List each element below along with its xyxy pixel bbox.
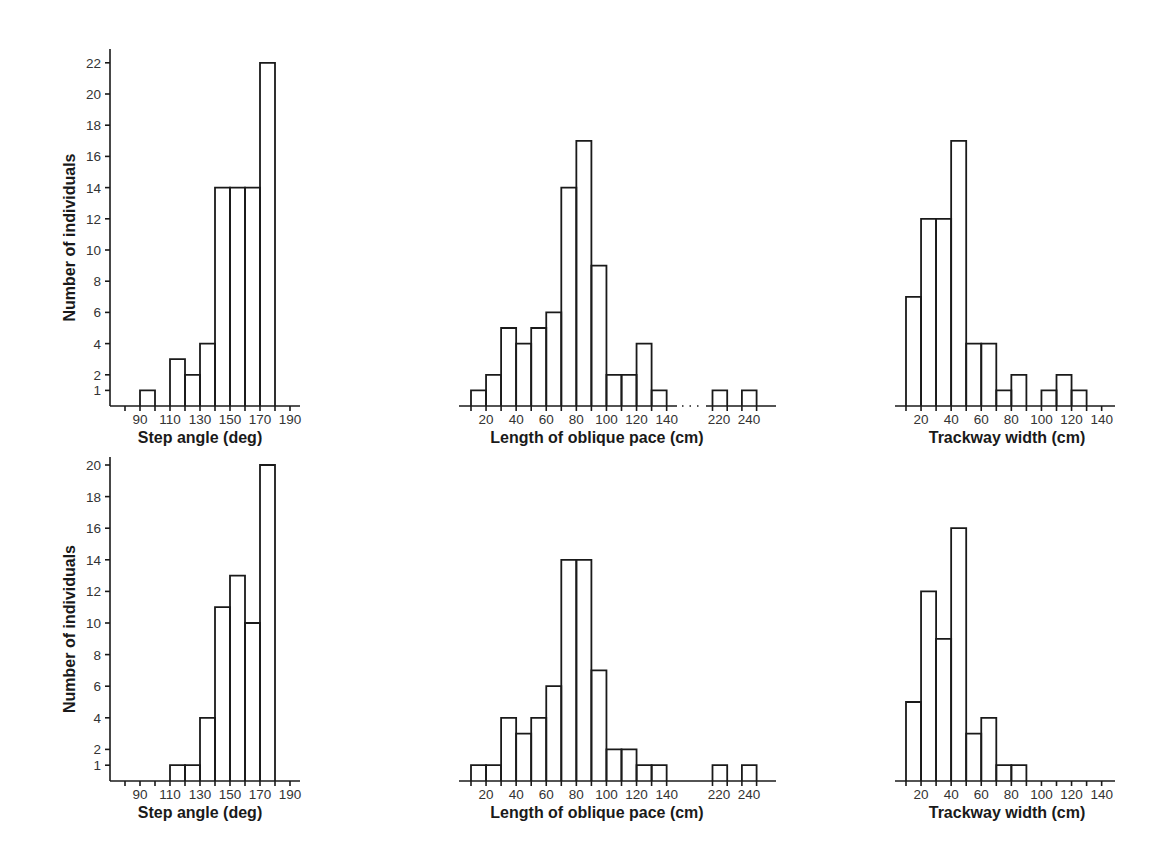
y-tick-label: 2 <box>93 742 101 757</box>
x-tick-label: 100 <box>595 787 618 802</box>
y-tick-label: 14 <box>86 181 102 196</box>
x-tick-label: 60 <box>539 412 554 427</box>
histogram-bar <box>1041 390 1056 406</box>
y-tick-label: 6 <box>93 305 101 320</box>
histogram-bar <box>1072 390 1087 406</box>
histogram-bar <box>486 765 501 781</box>
y-tick-label: 20 <box>86 87 101 102</box>
x-tick-label: 110 <box>159 412 181 427</box>
x-axis-title: Step angle (deg) <box>138 429 262 446</box>
histogram-bar <box>606 375 621 406</box>
x-tick-label: 120 <box>1060 787 1083 802</box>
histogram-bar <box>713 765 728 781</box>
histogram-bar <box>516 344 531 406</box>
histogram-bar <box>501 718 516 781</box>
x-tick-label: 130 <box>189 412 212 427</box>
histogram-bar <box>906 297 921 406</box>
histogram-bar <box>906 702 921 781</box>
histogram-bar <box>531 328 546 406</box>
x-tick-label: 20 <box>914 412 929 427</box>
x-tick-label: 130 <box>189 787 212 802</box>
x-tick-label: 240 <box>738 412 761 427</box>
histogram-bar <box>921 591 936 781</box>
x-axis-title: Trackway width (cm) <box>929 804 1086 821</box>
x-axis-title: Step angle (deg) <box>138 804 262 821</box>
histogram-bar <box>981 718 996 781</box>
histogram-bar <box>576 560 591 781</box>
histogram-bar <box>230 188 245 406</box>
x-tick-label: 20 <box>479 787 494 802</box>
histogram-bar <box>215 188 230 406</box>
histogram-bar <box>230 576 245 781</box>
y-tick-label: 22 <box>86 56 101 71</box>
x-tick-label: 220 <box>708 412 731 427</box>
histogram-panel-bottom-step-angle: 90110130150170190Step angle (deg)1246810… <box>61 457 301 821</box>
x-axis-title: Length of oblique pace (cm) <box>490 804 703 821</box>
x-tick-label: 140 <box>655 787 678 802</box>
histogram-bar <box>200 718 215 781</box>
y-tick-label: 2 <box>93 368 101 383</box>
y-tick-label: 10 <box>86 243 101 258</box>
histogram-bar <box>245 188 260 406</box>
histogram-bar <box>516 734 531 781</box>
x-tick-label: 140 <box>655 412 678 427</box>
x-tick-label: 80 <box>1004 412 1019 427</box>
x-tick-label: 150 <box>219 787 242 802</box>
histogram-bar <box>637 765 652 781</box>
histogram-bar <box>951 141 966 406</box>
x-tick-label: 80 <box>569 412 584 427</box>
x-tick-label: 20 <box>914 787 929 802</box>
y-axis-title: Number of individuals <box>61 545 78 713</box>
x-tick-label: 100 <box>1030 787 1053 802</box>
panels: 90110130150170190Step angle (deg)1246810… <box>61 49 1115 821</box>
histogram-bar <box>471 765 486 781</box>
y-tick-label: 18 <box>86 490 101 505</box>
histogram-panel-bottom-oblique-pace: 20406080100120140220240Length of oblique… <box>459 560 776 821</box>
x-tick-label: 170 <box>249 787 272 802</box>
x-tick-label: 170 <box>249 412 272 427</box>
y-tick-label: 8 <box>93 274 101 289</box>
histogram-bar <box>561 560 576 781</box>
y-tick-label: 1 <box>93 383 101 398</box>
histogram-bar <box>486 375 501 406</box>
x-tick-label: 120 <box>1060 412 1083 427</box>
histogram-bar <box>140 390 155 406</box>
x-tick-label: 60 <box>974 412 989 427</box>
y-axis-title: Number of individuals <box>61 153 78 321</box>
histogram-bar <box>996 765 1011 781</box>
histogram-bar <box>622 375 637 406</box>
histogram-bar <box>170 359 185 406</box>
histogram-bar <box>921 219 936 406</box>
x-tick-label: 80 <box>569 787 584 802</box>
histogram-bar <box>531 718 546 781</box>
histogram-bar <box>471 390 486 406</box>
x-tick-label: 60 <box>974 787 989 802</box>
histogram-bar <box>591 266 606 406</box>
histogram-bar <box>637 344 652 406</box>
y-tick-label: 18 <box>86 118 101 133</box>
y-tick-label: 16 <box>86 149 101 164</box>
histogram-panel-top-trackway-width: 20406080100120140Trackway width (cm) <box>895 141 1115 446</box>
histogram-bar <box>622 749 637 781</box>
histogram-bar <box>996 390 1011 406</box>
x-tick-label: 80 <box>1004 787 1019 802</box>
histogram-bar <box>546 686 561 781</box>
y-tick-label: 12 <box>86 584 101 599</box>
x-tick-label: 90 <box>132 787 147 802</box>
x-tick-label: 190 <box>279 787 302 802</box>
y-tick-label: 16 <box>86 521 101 536</box>
histogram-panel-top-step-angle: 90110130150170190Step angle (deg)1246810… <box>61 49 301 446</box>
histogram-bar <box>981 344 996 406</box>
histogram-bar <box>652 765 667 781</box>
x-tick-label: 40 <box>944 412 959 427</box>
y-tick-label: 4 <box>93 337 101 352</box>
x-tick-label: 120 <box>625 787 648 802</box>
histogram-bar <box>713 390 728 406</box>
x-tick-label: 140 <box>1090 412 1113 427</box>
histogram-figure: 90110130150170190Step angle (deg)1246810… <box>0 0 1157 868</box>
x-tick-label: 190 <box>279 412 302 427</box>
y-tick-label: 8 <box>93 648 101 663</box>
x-axis-title: Trackway width (cm) <box>929 429 1086 446</box>
histogram-bar <box>742 390 757 406</box>
histogram-bar <box>652 390 667 406</box>
